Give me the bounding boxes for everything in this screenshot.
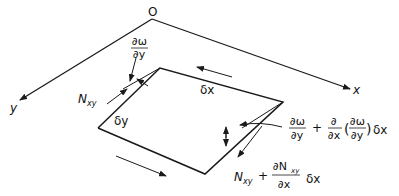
svg-text:N: N <box>234 170 243 184</box>
svg-text:(: ( <box>344 121 349 137</box>
right-shear-label: N xy + ∂N xy ∂x δx <box>234 160 320 191</box>
svg-text:+: + <box>312 121 322 135</box>
svg-text:∂y: ∂y <box>291 129 304 142</box>
shear-arrows <box>107 58 282 176</box>
svg-text:xy: xy <box>86 99 97 108</box>
dx-label: δx <box>200 83 214 97</box>
left-shear-arrow <box>107 89 127 104</box>
svg-text:): ) <box>366 121 371 137</box>
svg-text:xy: xy <box>290 167 300 175</box>
axes <box>20 19 350 100</box>
right-slope-label: ∂ω ∂y + ∂ ∂x ( ∂ω ∂y ) δx <box>289 115 387 142</box>
svg-text:∂y: ∂y <box>133 48 146 61</box>
left-slope-pointer <box>130 58 136 81</box>
svg-text:δx: δx <box>306 172 320 186</box>
origin-label: O <box>148 5 157 19</box>
diagram-canvas: O x y δx δy ∂ω ∂y N xy ∂ω ∂y + <box>0 0 399 196</box>
svg-text:∂ω: ∂ω <box>290 115 305 128</box>
y-axis-label: y <box>9 101 18 115</box>
svg-text:∂y: ∂y <box>351 129 364 142</box>
svg-text:∂ω: ∂ω <box>132 35 147 48</box>
right-shear-arrow <box>238 126 262 157</box>
svg-text:N: N <box>78 92 87 106</box>
svg-text:xy: xy <box>242 177 253 186</box>
left-shear-label: N xy <box>78 92 97 108</box>
svg-text:∂: ∂ <box>331 115 337 128</box>
x-axis-label: x <box>352 83 361 97</box>
svg-text:∂N: ∂N <box>273 160 287 173</box>
dy-label: δy <box>114 114 128 128</box>
svg-text:+: + <box>258 169 268 183</box>
svg-text:∂x: ∂x <box>328 129 341 142</box>
left-slope-label: ∂ω ∂y <box>131 35 148 61</box>
svg-text:∂x: ∂x <box>278 178 291 191</box>
svg-text:∂ω: ∂ω <box>350 115 365 128</box>
top-shear-arrow <box>197 67 232 77</box>
bottom-shear-arrow <box>116 156 166 176</box>
svg-text:δx: δx <box>373 123 387 137</box>
x-axis <box>152 19 350 89</box>
